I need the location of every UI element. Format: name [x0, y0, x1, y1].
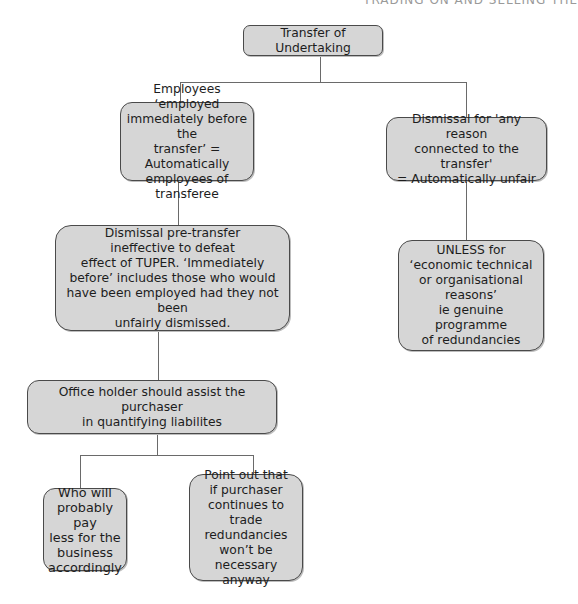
node-dismissal-automatically-unfair: Dismissal for 'any reason connected to t… — [386, 117, 547, 181]
node-transfer-of-undertaking: Transfer of Undertaking — [243, 25, 383, 56]
node-employees-automatically-transferred: Employees ‘employed immediately before t… — [120, 102, 254, 181]
node-label: UNLESS for ‘economic technical or organi… — [403, 243, 539, 348]
node-pre-transfer-dismissal: Dismissal pre-transfer ineffective to de… — [55, 225, 290, 331]
node-office-holder-assist: Office holder should assist the purchase… — [27, 380, 277, 434]
connector-officeholder-split — [80, 455, 254, 456]
running-header: TRADING ON AND SELLING THE — [363, 0, 578, 7]
node-label: Point out that if purchaser continues to… — [191, 468, 301, 588]
node-label: Transfer of Undertaking — [248, 26, 378, 56]
node-label: Dismissal for 'any reason connected to t… — [391, 112, 542, 187]
connector-pretransfer-to-officeholder — [158, 330, 159, 380]
node-label: Employees ‘employed immediately before t… — [125, 82, 249, 202]
node-point-out-redundancies: Point out that if purchaser continues to… — [189, 474, 303, 581]
connector-root-down — [320, 55, 321, 82]
connector-to-pay-less — [80, 455, 81, 488]
node-label: Office holder should assist the purchase… — [32, 385, 272, 430]
connector-dismissal-to-unless — [466, 180, 467, 240]
node-unless-eto-reasons: UNLESS for ‘economic technical or organi… — [398, 240, 544, 351]
node-label: Who will probably pay less for the busin… — [48, 485, 122, 575]
node-label: Dismissal pre-transfer ineffective to de… — [60, 226, 285, 331]
node-pay-less: Who will probably pay less for the busin… — [43, 488, 127, 571]
connector-officeholder-down — [157, 433, 158, 455]
